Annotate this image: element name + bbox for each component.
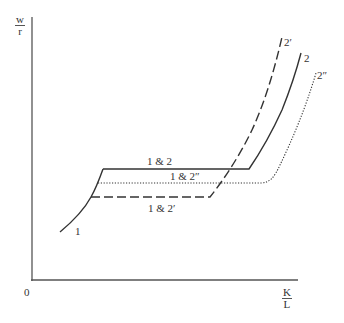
- x-axis-label: K L: [282, 287, 292, 310]
- x-axis-label-denominator: L: [282, 299, 292, 310]
- curve-1-and-2-plateau: [103, 53, 301, 169]
- curve-2-double-prime-label: 2″: [317, 70, 327, 81]
- curve-1-label: 1: [75, 226, 81, 237]
- y-axis-label: w r: [15, 14, 25, 37]
- curve-2-label: 2: [304, 53, 310, 64]
- plateau-1-and-2-label: 1 & 2: [147, 156, 172, 167]
- plateau-1-and-2-prime-label: 1 & 2′: [148, 203, 175, 214]
- plateau-1-and-2-double-prime-label: 1 & 2″: [170, 171, 200, 182]
- curve-2-prime-label: 2′: [284, 37, 292, 48]
- y-axis-label-denominator: r: [15, 26, 25, 37]
- curve-1: [60, 169, 103, 232]
- curve-1-and-2-double-prime-plateau: [98, 73, 316, 183]
- origin-label: 0: [24, 287, 30, 298]
